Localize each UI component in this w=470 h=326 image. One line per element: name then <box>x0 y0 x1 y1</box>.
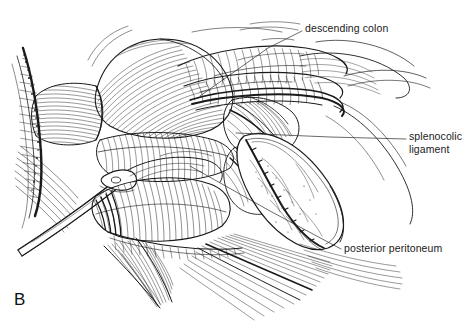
label-posterior-peritoneum: posterior peritoneum <box>344 242 442 255</box>
panel-letter-b: B <box>14 290 26 310</box>
label-splenocolic-line1: splenocolic <box>409 130 462 142</box>
figure-panel-b: descending colon splenocolicligament pos… <box>0 0 470 326</box>
label-splenocolic-line2: ligament <box>409 143 450 155</box>
label-splenocolic-ligament: splenocolicligament <box>409 130 462 155</box>
anatomy-illustration <box>0 0 470 326</box>
label-descending-colon: descending colon <box>305 22 388 35</box>
